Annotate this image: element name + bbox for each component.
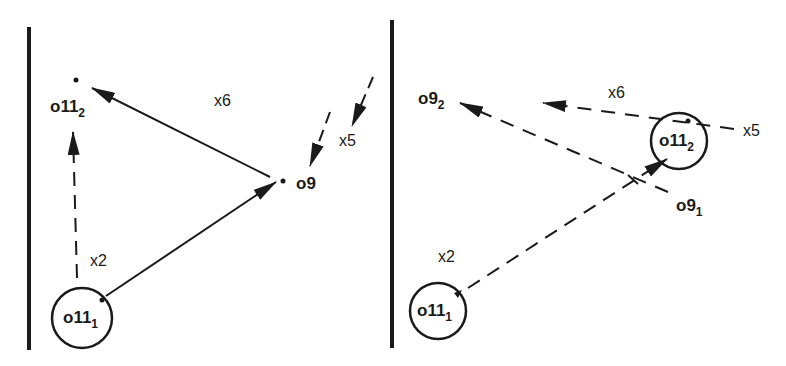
edge-o11-1-to-o9-arrow bbox=[106, 182, 276, 296]
edge-x6-dashed-arrow bbox=[543, 103, 734, 129]
o9-dot bbox=[281, 179, 286, 184]
right-panel: o92 o112 x6 x5 o91 o111 x2 bbox=[410, 84, 760, 339]
o11-1-dot bbox=[100, 298, 105, 303]
o11-2-dot bbox=[74, 78, 79, 83]
edge-x2-label: x2 bbox=[438, 248, 455, 265]
edge-x6-label: x6 bbox=[214, 92, 231, 109]
edge-x2-dashed-arrow bbox=[73, 132, 77, 278]
o9-1-label: o91 bbox=[676, 196, 703, 219]
edge-x6-solid-arrow bbox=[92, 88, 270, 177]
left-panel: o112 x2 o111 o9 x6 x5 bbox=[50, 77, 373, 348]
o11-2-label: o112 bbox=[659, 131, 694, 154]
edge-x2-label: x2 bbox=[90, 252, 107, 269]
diagram-canvas: o112 x2 o111 o9 x6 x5 o92 bbox=[0, 0, 786, 366]
edge-x5-dashed-arrow-outer bbox=[352, 77, 373, 126]
o11-1-label: o111 bbox=[63, 308, 98, 331]
o11-2-label: o112 bbox=[50, 97, 85, 120]
o11-1-label: o111 bbox=[417, 301, 452, 324]
o9-2-label: o92 bbox=[418, 89, 445, 112]
edge-x6-label: x6 bbox=[608, 84, 625, 101]
o9-label: o9 bbox=[296, 174, 316, 193]
edge-x5-dashed-arrow-inner bbox=[310, 112, 330, 166]
edge-x5-label: x5 bbox=[339, 132, 356, 149]
edge-x5-label: x5 bbox=[743, 122, 760, 139]
